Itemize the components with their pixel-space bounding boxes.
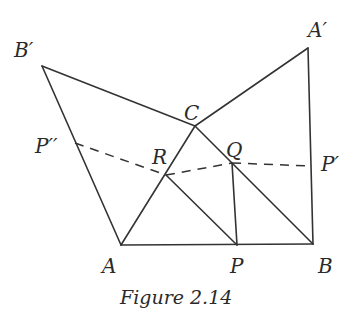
label-r: R bbox=[152, 147, 167, 167]
label-b-prime: B′ bbox=[14, 40, 33, 60]
label-b: B bbox=[318, 256, 333, 276]
segment-q-p bbox=[232, 163, 237, 245]
segment-a-b bbox=[121, 244, 313, 245]
label-c: C bbox=[184, 103, 199, 123]
figure-caption: Figure 2.14 bbox=[120, 288, 232, 307]
segment-c-b bbox=[195, 126, 313, 244]
label-p: P bbox=[230, 256, 243, 276]
segment-a-c bbox=[121, 126, 195, 245]
label-p-double-prime: P′′ bbox=[35, 136, 58, 156]
segment-r-p bbox=[166, 175, 237, 245]
dashed-segment-q-p-prime bbox=[232, 163, 312, 166]
dashed-segment-r-q bbox=[166, 163, 232, 175]
segment-c-a-prime bbox=[195, 48, 308, 126]
label-p-prime: P′ bbox=[321, 154, 339, 174]
label-q: Q bbox=[226, 140, 242, 160]
label-a-prime: A′ bbox=[308, 20, 327, 40]
geometry-diagram bbox=[0, 0, 363, 322]
solid-lines bbox=[42, 48, 313, 245]
label-a: A bbox=[102, 256, 116, 276]
segment-a-prime-b bbox=[308, 48, 313, 244]
dashed-lines bbox=[75, 143, 312, 175]
